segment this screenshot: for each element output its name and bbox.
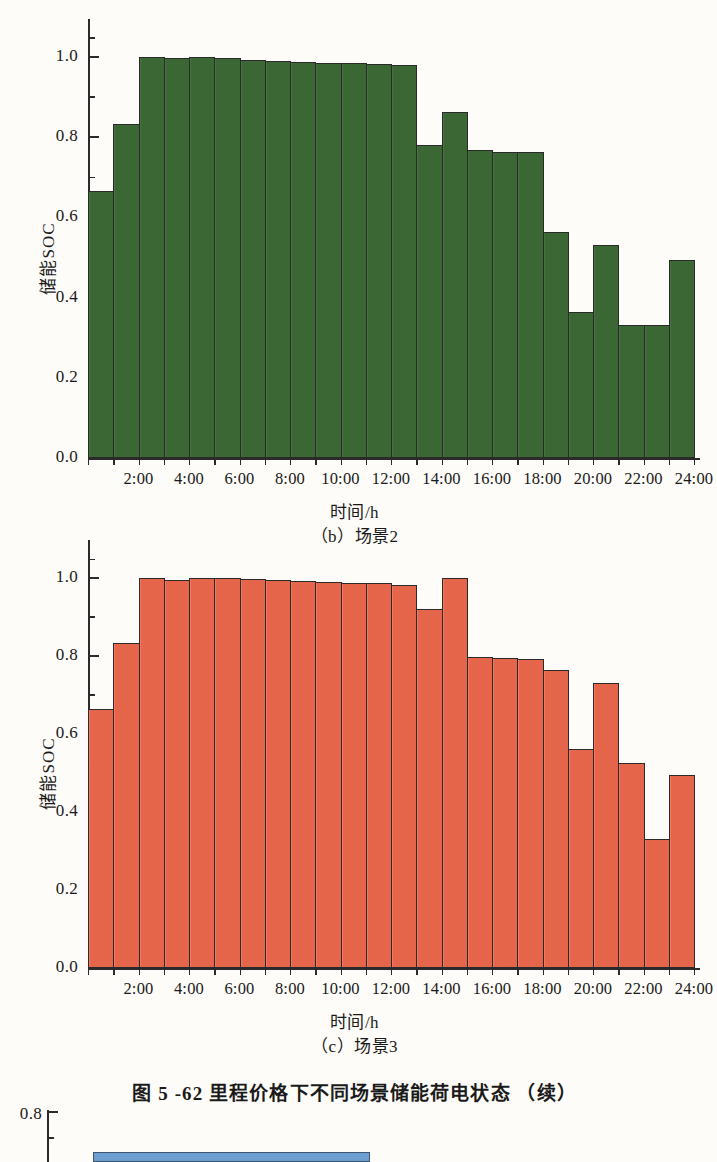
bar bbox=[442, 112, 468, 458]
bar bbox=[568, 749, 594, 968]
x-tick bbox=[341, 968, 342, 975]
x-tick bbox=[139, 458, 140, 465]
x-tick bbox=[416, 458, 417, 465]
y-tick-label-0: 0.0 bbox=[26, 447, 78, 467]
x-tick bbox=[492, 968, 493, 975]
x-tick bbox=[517, 458, 518, 465]
bar bbox=[240, 60, 266, 458]
x-tick bbox=[416, 968, 417, 975]
bar bbox=[290, 581, 316, 968]
x-tick bbox=[694, 458, 695, 465]
y-tick-minor-partial-0 bbox=[47, 1137, 54, 1139]
x-tick bbox=[139, 968, 140, 975]
x-tick bbox=[492, 458, 493, 465]
y-tick-minor bbox=[88, 616, 95, 618]
y-tick-label-1: 0.2 bbox=[26, 367, 78, 387]
bar bbox=[669, 775, 695, 968]
bar bbox=[618, 325, 644, 458]
x-axis-line bbox=[88, 458, 700, 460]
bar bbox=[593, 245, 619, 458]
y-tick-label-5: 1.0 bbox=[26, 46, 78, 66]
x-tick bbox=[214, 968, 215, 975]
x-tick-label-24: 24:00 bbox=[660, 979, 717, 999]
y-tick-label-5: 1.0 bbox=[26, 567, 78, 587]
bar bbox=[568, 312, 594, 458]
y-tick-label-1: 0.2 bbox=[26, 879, 78, 899]
x-tick bbox=[669, 968, 670, 975]
y-tick-major-5 bbox=[88, 577, 99, 579]
x-tick bbox=[315, 968, 316, 975]
x-tick bbox=[265, 968, 266, 975]
bar bbox=[366, 64, 392, 458]
bar bbox=[543, 670, 569, 968]
bar bbox=[341, 63, 367, 458]
x-tick bbox=[88, 968, 89, 975]
bar bbox=[164, 58, 190, 458]
bar bbox=[315, 63, 341, 458]
bar bbox=[240, 579, 266, 968]
x-tick bbox=[315, 458, 316, 465]
y-tick-minor bbox=[88, 96, 95, 98]
bar bbox=[189, 578, 215, 968]
x-tick bbox=[442, 968, 443, 975]
x-tick bbox=[391, 458, 392, 465]
x-tick bbox=[366, 968, 367, 975]
x-tick bbox=[113, 968, 114, 975]
x-tick bbox=[669, 458, 670, 465]
bar bbox=[113, 643, 139, 968]
x-tick-label-24: 24:00 bbox=[660, 469, 717, 489]
x-tick bbox=[189, 458, 190, 465]
x-tick bbox=[290, 968, 291, 975]
x-tick bbox=[240, 458, 241, 465]
x-tick bbox=[164, 968, 165, 975]
x-tick bbox=[391, 968, 392, 975]
y-tick-major-5 bbox=[88, 56, 99, 58]
y-tick-label-partial: 0.8 bbox=[6, 1104, 42, 1124]
bar bbox=[517, 152, 543, 458]
partial-bar-group bbox=[93, 1152, 370, 1162]
y-tick-major-4 bbox=[88, 655, 99, 657]
x-tick bbox=[442, 458, 443, 465]
bar bbox=[290, 62, 316, 458]
x-axis-line bbox=[88, 968, 700, 970]
bar bbox=[214, 58, 240, 458]
bar bbox=[517, 659, 543, 968]
y-tick-major-4 bbox=[88, 136, 99, 138]
bar bbox=[214, 578, 240, 968]
x-tick bbox=[694, 968, 695, 975]
x-tick bbox=[644, 968, 645, 975]
x-tick bbox=[366, 458, 367, 465]
y-axis-title: 储能SOC bbox=[34, 188, 59, 328]
x-tick bbox=[290, 458, 291, 465]
bar bbox=[139, 578, 165, 968]
x-tick bbox=[341, 458, 342, 465]
bar bbox=[366, 583, 392, 968]
y-tick-label-4: 0.8 bbox=[26, 126, 78, 146]
y-tick-minor bbox=[88, 177, 95, 179]
bar bbox=[416, 609, 442, 968]
bar bbox=[139, 57, 165, 458]
y-tick-major-partial-0 bbox=[47, 1111, 58, 1113]
bar bbox=[467, 657, 493, 968]
bar bbox=[113, 124, 139, 458]
bar bbox=[88, 191, 114, 458]
y-tick-label-4: 0.8 bbox=[26, 645, 78, 665]
y-tick-minor bbox=[88, 559, 95, 561]
x-tick bbox=[517, 968, 518, 975]
x-axis-title: 时间/h bbox=[0, 1008, 709, 1033]
bar bbox=[644, 839, 670, 968]
x-tick bbox=[644, 458, 645, 465]
bar bbox=[593, 683, 619, 968]
x-tick bbox=[593, 458, 594, 465]
bar bbox=[669, 260, 695, 458]
x-tick bbox=[240, 968, 241, 975]
x-tick bbox=[618, 458, 619, 465]
x-tick bbox=[214, 458, 215, 465]
chart-panel-scenario3: 0.00.20.40.60.81.02:004:006:008:0010:001… bbox=[0, 510, 709, 1060]
x-tick bbox=[593, 968, 594, 975]
x-tick bbox=[543, 968, 544, 975]
x-tick bbox=[568, 968, 569, 975]
x-tick bbox=[568, 458, 569, 465]
bar bbox=[644, 325, 670, 458]
x-tick bbox=[113, 458, 114, 465]
